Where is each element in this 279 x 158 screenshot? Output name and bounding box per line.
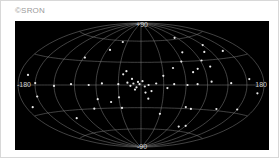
data-point xyxy=(88,84,90,86)
data-point xyxy=(138,83,140,85)
data-point xyxy=(117,83,119,85)
data-point xyxy=(144,85,146,87)
data-point xyxy=(144,92,146,94)
data-point xyxy=(109,49,111,51)
axis-label-bottom: -90 xyxy=(137,143,147,150)
data-point xyxy=(132,82,134,84)
sky-map-panel: +90 -90 -180 180 xyxy=(15,21,269,150)
data-point xyxy=(185,106,187,108)
data-point xyxy=(185,125,187,127)
data-point xyxy=(155,82,157,84)
data-point xyxy=(34,82,36,84)
data-point xyxy=(162,75,164,77)
data-point xyxy=(135,86,137,88)
data-points xyxy=(27,37,259,128)
data-point xyxy=(211,81,213,83)
data-point xyxy=(200,59,202,61)
data-point xyxy=(118,96,120,98)
data-point xyxy=(36,95,38,97)
data-point xyxy=(125,70,127,72)
data-point xyxy=(203,51,205,53)
axis-label-top: +90 xyxy=(136,21,148,28)
axis-label-left: -180 xyxy=(17,81,31,88)
data-point xyxy=(147,98,149,100)
data-point xyxy=(256,92,258,94)
data-point xyxy=(178,126,180,128)
data-point xyxy=(134,89,136,91)
data-point xyxy=(192,71,194,73)
data-point xyxy=(202,44,204,46)
data-point xyxy=(186,84,188,86)
data-point xyxy=(122,41,124,43)
data-point xyxy=(215,108,217,110)
data-point xyxy=(137,81,139,83)
data-point xyxy=(148,84,150,86)
data-point xyxy=(53,85,55,87)
data-point xyxy=(121,107,123,109)
data-point xyxy=(180,61,182,63)
figure-frame: ©SRON +90 -90 -180 180 xyxy=(0,0,279,158)
graticule xyxy=(18,23,264,147)
data-point xyxy=(131,78,133,80)
data-point xyxy=(27,74,29,76)
data-point xyxy=(141,80,143,82)
data-point xyxy=(93,108,95,110)
credit-label: ©SRON xyxy=(15,6,45,15)
data-point xyxy=(150,90,152,92)
data-point xyxy=(159,113,161,115)
data-point xyxy=(197,83,199,85)
data-point xyxy=(190,108,192,110)
data-point xyxy=(110,101,112,103)
data-point xyxy=(173,83,175,85)
data-point xyxy=(129,85,131,87)
data-point xyxy=(181,51,183,53)
data-point xyxy=(76,117,78,119)
data-point xyxy=(174,37,176,39)
data-point xyxy=(197,68,199,70)
data-point xyxy=(122,73,124,75)
data-point xyxy=(97,98,99,100)
data-point xyxy=(101,82,103,84)
data-point xyxy=(222,50,224,52)
axis-label-right: 180 xyxy=(255,81,267,88)
data-point xyxy=(172,67,174,69)
data-point xyxy=(166,87,168,89)
data-point xyxy=(230,82,232,84)
data-point xyxy=(70,83,72,85)
data-point xyxy=(32,106,34,108)
data-point xyxy=(236,108,238,110)
data-point xyxy=(126,82,128,84)
allsky-projection: +90 -90 -180 180 xyxy=(15,21,269,150)
data-point xyxy=(248,78,250,80)
data-point xyxy=(84,57,86,59)
data-point xyxy=(209,66,211,68)
